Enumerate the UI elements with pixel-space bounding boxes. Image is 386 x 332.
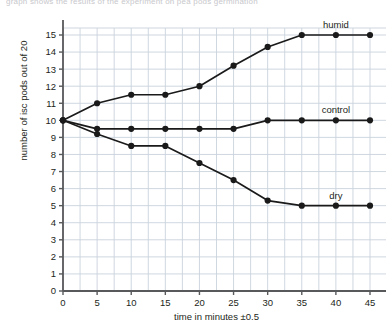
x-tick-label: 30 xyxy=(262,297,273,308)
grid-lines xyxy=(63,28,386,291)
data-point-humid xyxy=(94,100,100,106)
data-point-control xyxy=(128,126,134,132)
x-tick-label: 25 xyxy=(228,297,239,308)
data-point-dry xyxy=(230,177,236,183)
y-tick-label: 8 xyxy=(51,149,56,160)
data-point-control xyxy=(162,126,168,132)
data-point-dry xyxy=(60,117,66,123)
data-point-dry xyxy=(299,203,305,209)
x-tick-label: 5 xyxy=(94,297,99,308)
x-tick-label: 45 xyxy=(365,297,376,308)
data-point-dry xyxy=(367,203,373,209)
data-point-humid xyxy=(367,32,373,38)
data-point-dry xyxy=(196,160,202,166)
line-chart-plot: 0123456789101112131415051015202530354045… xyxy=(0,0,386,332)
data-point-dry xyxy=(128,143,134,149)
x-axis-ticks: 051015202530354045 xyxy=(60,291,375,308)
chart-figure: graph shows the results of the experimen… xyxy=(0,0,386,332)
series-label-humid: humid xyxy=(323,19,349,30)
y-tick-label: 7 xyxy=(51,166,56,177)
y-tick-label: 4 xyxy=(51,217,56,228)
x-tick-label: 40 xyxy=(331,297,342,308)
y-tick-label: 15 xyxy=(45,29,56,40)
x-axis-label: time in minutes ±0.5 xyxy=(63,311,370,322)
data-point-humid xyxy=(230,63,236,69)
y-tick-label: 6 xyxy=(51,183,56,194)
y-axis-label: number of isc pods out of 20 xyxy=(18,16,29,186)
y-tick-label: 1 xyxy=(51,268,56,279)
data-point-humid xyxy=(333,32,339,38)
y-tick-label: 5 xyxy=(51,200,56,211)
y-tick-label: 9 xyxy=(51,132,56,143)
data-point-dry xyxy=(162,143,168,149)
data-point-humid xyxy=(162,92,168,98)
x-tick-label: 0 xyxy=(60,297,65,308)
data-point-control xyxy=(299,117,305,123)
x-tick-label: 10 xyxy=(126,297,137,308)
y-tick-label: 13 xyxy=(45,64,56,75)
x-tick-label: 35 xyxy=(296,297,307,308)
data-point-control xyxy=(230,126,236,132)
y-tick-label: 11 xyxy=(46,98,56,109)
data-point-control xyxy=(333,117,339,123)
y-tick-label: 3 xyxy=(51,234,56,245)
data-point-control xyxy=(265,117,271,123)
y-tick-label: 14 xyxy=(45,46,56,57)
data-point-dry xyxy=(265,197,271,203)
data-point-control xyxy=(367,117,373,123)
axes xyxy=(63,20,386,291)
y-tick-label: 0 xyxy=(51,285,56,296)
y-tick-label: 10 xyxy=(45,115,56,126)
data-point-humid xyxy=(299,32,305,38)
data-point-dry xyxy=(333,203,339,209)
x-tick-label: 15 xyxy=(160,297,171,308)
series-label-control: control xyxy=(322,104,351,115)
data-point-humid xyxy=(196,83,202,89)
data-point-humid xyxy=(265,44,271,50)
data-point-control xyxy=(196,126,202,132)
y-axis-ticks: 0123456789101112131415 xyxy=(45,29,63,296)
series-label-dry: dry xyxy=(329,190,342,201)
y-tick-label: 2 xyxy=(51,251,56,262)
x-tick-label: 20 xyxy=(194,297,205,308)
data-point-dry xyxy=(94,131,100,137)
data-point-humid xyxy=(128,92,134,98)
y-tick-label: 12 xyxy=(45,81,56,92)
